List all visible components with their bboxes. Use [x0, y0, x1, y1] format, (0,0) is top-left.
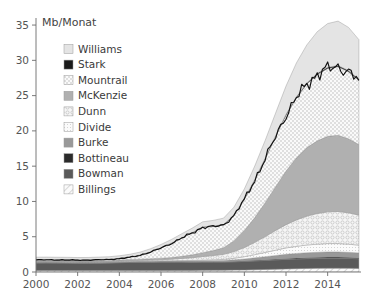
legend-label-bottineau: Bottineau [78, 152, 129, 164]
legend-label-divide: Divide [78, 121, 111, 133]
x-tick-label: 2000 [23, 278, 50, 290]
williams-swatch [64, 45, 73, 54]
legend-label-dunn: Dunn [78, 105, 106, 117]
x-tick-label: 2004 [106, 278, 133, 290]
stacked-area-chart: 0510152025303520002002200420062008201020… [0, 0, 371, 306]
dunn-swatch [64, 107, 73, 116]
y-tick-label: 20 [16, 124, 29, 136]
mountrail-swatch [64, 76, 73, 85]
y-tick-label: 25 [16, 89, 29, 101]
x-tick-label: 2006 [148, 278, 175, 290]
y-tick-label: 5 [22, 230, 29, 242]
x-tick-label: 2010 [231, 278, 258, 290]
chart-legend: WilliamsStarkMountrailMcKenzieDunnDivide… [64, 43, 129, 195]
chart-container: 0510152025303520002002200420062008201020… [0, 0, 371, 306]
bottineau-swatch [64, 154, 73, 163]
x-tick-label: 2008 [189, 278, 216, 290]
stark-swatch [64, 60, 73, 69]
y-axis-title: Mb/Monat [42, 16, 97, 29]
y-tick-label: 10 [16, 195, 29, 207]
legend-label-williams: Williams [78, 43, 122, 55]
legend-label-mountrail: Mountrail [78, 74, 128, 86]
legend-label-bowman: Bowman [78, 167, 124, 179]
billings-swatch [64, 185, 73, 194]
x-tick-label: 2012 [273, 278, 300, 290]
y-tick-label: 35 [16, 19, 29, 31]
legend-label-stark: Stark [78, 58, 107, 70]
y-tick-label: 30 [16, 54, 29, 66]
x-tick-label: 2002 [64, 278, 91, 290]
bowman-swatch [64, 169, 73, 178]
x-tick-label: 2014 [314, 278, 341, 290]
burke-swatch [64, 138, 73, 147]
legend-label-burke: Burke [78, 136, 108, 148]
mckenzie-swatch [64, 91, 73, 100]
y-tick-label: 0 [22, 266, 29, 278]
legend-label-billings: Billings [78, 183, 116, 195]
y-tick-label: 15 [16, 160, 29, 172]
legend-label-mckenzie: McKenzie [78, 89, 127, 101]
divide-swatch [64, 123, 73, 132]
